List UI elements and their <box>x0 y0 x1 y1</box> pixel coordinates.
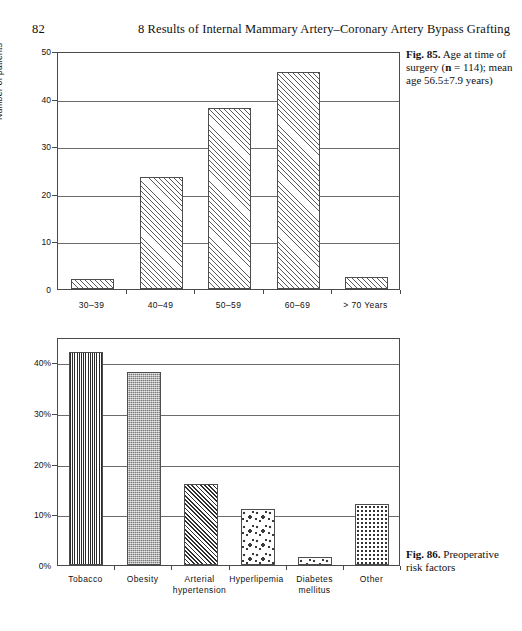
figure-85-caption-label: Fig. 85. <box>406 48 441 60</box>
gridline <box>58 364 399 365</box>
gridline <box>58 415 399 416</box>
bar <box>184 484 218 565</box>
bar <box>127 372 161 565</box>
x-axis-tick-label: Hyperlipemia <box>228 574 285 584</box>
x-axis-tick-mark <box>286 566 287 570</box>
y-axis-tick-mark <box>52 414 57 415</box>
y-axis-tick-label: 40% <box>21 358 51 368</box>
figure-86-chart: 0%10%20%30%40%TobaccoObesityArterial hyp… <box>0 0 522 631</box>
x-axis-tick-mark <box>171 566 172 570</box>
gridline <box>58 466 399 467</box>
y-axis-tick-mark <box>52 363 57 364</box>
plot-area-chart2 <box>57 338 400 566</box>
bar <box>69 352 103 565</box>
x-axis-tick-label: Arterial hypertension <box>171 574 228 596</box>
figure-85-caption: Fig. 85. Age at time of surgery (n = 114… <box>406 48 518 88</box>
y-axis-tick-label: 30% <box>21 409 51 419</box>
bar <box>298 557 332 565</box>
y-axis-tick-label: 20% <box>21 460 51 470</box>
bar <box>355 504 389 565</box>
x-axis-tick-label: Other <box>343 574 400 584</box>
gridline <box>58 516 399 517</box>
figure-86-caption-label: Fig. 86. <box>406 548 441 560</box>
y-axis-tick-mark <box>52 465 57 466</box>
x-axis-tick-label: Tobacco <box>57 574 114 584</box>
x-axis-tick-mark <box>229 566 230 570</box>
x-axis-tick-label: Obesity <box>114 574 171 584</box>
x-axis-tick-mark <box>343 566 344 570</box>
x-axis-tick-mark <box>400 566 401 570</box>
y-axis-tick-mark <box>52 515 57 516</box>
y-axis-tick-label: 10% <box>21 510 51 520</box>
figure-86-caption: Fig. 86. Preoperative risk factors <box>406 548 518 574</box>
x-axis-tick-label: Diabetes mellitus <box>286 574 343 596</box>
x-axis-tick-mark <box>114 566 115 570</box>
bar <box>241 509 275 565</box>
y-axis-tick-label: 0% <box>21 561 51 571</box>
